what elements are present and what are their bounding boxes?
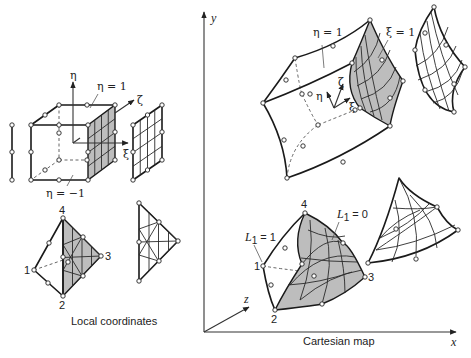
cube-face-grid [131,103,164,182]
tet-node-1-label: 1 [24,264,30,276]
curved-tet-element: 4 1 2 3 L1 = 1 L1 = 0 [244,198,374,325]
tet-node-2-label: 2 [59,299,65,311]
L1-equals-0-label: L1 = 0 [336,207,368,223]
y-axis-label: y [210,11,217,25]
curved-tet-node-3-label: 3 [368,271,374,283]
cartesian-map-panel: y x z [204,5,467,349]
cartesian-map-caption: Cartesian map [303,335,375,347]
hex-zeta-axis-label: ζ [338,76,344,89]
tet-node-3-label: 3 [105,250,111,262]
hex-eta-face-label: η = 1 [313,26,343,39]
L1-equals-1-label: L1 = 1 [244,230,276,246]
local-coordinates-caption: Local coordinates [71,315,158,327]
z-axis-label: z [243,292,249,306]
eta-bottom-face-label: η = −1 [46,187,85,200]
hex-xi-face-label: ξ = 1 [386,26,415,39]
isoparametric-mapping-figure: η ζ ξ η = 1 η = −1 [0,0,471,358]
tet-node-4-label: 4 [59,204,65,216]
curved-tet-node-1-label: 1 [254,260,260,272]
eta-top-face-label: η = 1 [97,80,127,93]
x-axis-label: x [450,335,457,349]
curved-hex-element: η = 1 ξ = 1 η ζ ξ [261,18,415,180]
xi-axis-label: ξ [123,148,129,161]
tetrahedron-element: 4 1 2 3 [24,204,111,311]
curved-triangle-grid [366,178,460,265]
hex-xi-axis-label: ξ [349,101,355,114]
eta-axis-label: η [70,69,77,82]
local-coordinates-panel: η ζ ξ η = 1 η = −1 [10,69,180,327]
triangle-face-grid [137,201,180,283]
line-element [10,123,14,182]
hex-eta-axis-label: η [316,90,323,103]
curved-tet-node-2-label: 2 [271,313,277,325]
curved-tet-node-4-label: 4 [301,198,307,210]
zeta-axis-label: ζ [137,94,143,107]
curved-quad-grid [413,5,467,114]
cube-element: η ζ ξ η = 1 η = −1 [29,69,143,200]
